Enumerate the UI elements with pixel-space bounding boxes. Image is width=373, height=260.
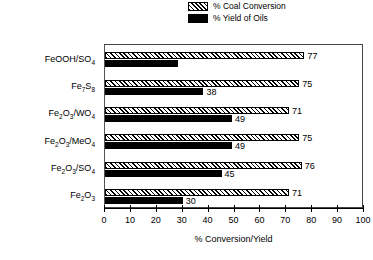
bar-coal-conversion: 71 (105, 189, 289, 196)
bar-value-label: 30 (186, 197, 196, 206)
bar-yield-of-oils: 38 (105, 88, 203, 95)
bar-value-label: 38 (206, 88, 216, 97)
legend-label-coal-conversion: % Coal Conversion (213, 2, 286, 11)
bar-group: 77 (105, 52, 362, 67)
axis-tick-label: 30 (177, 216, 187, 225)
axis-tick (208, 205, 209, 212)
bar-yield-of-oils: 45 (105, 170, 222, 177)
plot-area: 7775387149754976457130 (104, 44, 363, 208)
axis-tick (234, 205, 235, 212)
bar-value-label: 49 (235, 142, 245, 151)
bar-value-label: 71 (292, 189, 302, 198)
bar-group: 7130 (105, 189, 362, 204)
axis-tick-label: 50 (228, 216, 238, 225)
bar-group: 7149 (105, 107, 362, 122)
axis-tick (259, 205, 260, 212)
axis-tick (311, 205, 312, 212)
category-label: Fe2O3/MeO4 (45, 136, 95, 146)
bar-yield-of-oils (105, 60, 178, 67)
bar-value-label: 77 (307, 52, 317, 61)
bar-coal-conversion: 76 (105, 162, 302, 169)
legend-label-yield-of-oils: % Yield of Oils (213, 14, 268, 23)
axis-tick (130, 205, 131, 212)
bar-value-label: 71 (292, 107, 302, 116)
axis-tick (156, 205, 157, 212)
legend-item-yield-of-oils: % Yield of Oils (188, 14, 286, 23)
bar-yield-of-oils: 49 (105, 142, 232, 149)
axis-tick-label: 60 (254, 216, 264, 225)
bar-value-label: 49 (235, 115, 245, 124)
bar-coal-conversion: 77 (105, 52, 304, 59)
bar-group: 7549 (105, 134, 362, 149)
bars-layer: 7775387149754976457130 (105, 45, 362, 207)
bar-value-label: 45 (225, 170, 235, 179)
axis-tick-label: 100 (355, 216, 370, 225)
axis-tick-label: 40 (203, 216, 213, 225)
bar-value-label: 75 (302, 80, 312, 89)
axis-tick-label: 20 (151, 216, 161, 225)
axis-tick-label: 10 (125, 216, 135, 225)
axis-tick (337, 205, 338, 212)
axis-tick-label: 70 (280, 216, 290, 225)
bar-value-label: 76 (305, 162, 315, 171)
bar-group: 7645 (105, 162, 362, 177)
axis-tick (363, 205, 364, 212)
bar-group: 7538 (105, 80, 362, 95)
category-label: Fe7S8 (71, 81, 95, 91)
axis-tick (285, 205, 286, 212)
category-axis-labels: FeOOH/SO4Fe7S8Fe2O3/WO4Fe2O3/MeO4Fe2O3/S… (0, 44, 100, 208)
axis-tick-label: 90 (332, 216, 342, 225)
category-label: Fe2O3/WO4 (49, 108, 95, 118)
chart-legend: % Coal Conversion % Yield of Oils (188, 2, 286, 23)
category-label: Fe2O3/SO4 (51, 163, 95, 173)
bar-coal-conversion: 71 (105, 107, 289, 114)
bar-value-label: 75 (302, 134, 312, 143)
bar-yield-of-oils: 49 (105, 115, 232, 122)
bar-coal-conversion: 75 (105, 134, 299, 141)
axis-tick (104, 205, 105, 212)
hatched-swatch-icon (188, 2, 208, 11)
category-label: Fe2O3 (70, 190, 95, 200)
value-axis: 0102030405060708090100 (104, 208, 363, 209)
axis-tick-label: 80 (306, 216, 316, 225)
x-axis-title: % Conversion/Yield (104, 234, 363, 244)
bar-yield-of-oils: 30 (105, 197, 183, 204)
solid-black-swatch-icon (188, 14, 208, 23)
category-label: FeOOH/SO4 (45, 54, 95, 64)
axis-tick (182, 205, 183, 212)
legend-item-coal-conversion: % Coal Conversion (188, 2, 286, 11)
axis-tick-label: 0 (101, 216, 106, 225)
bar-coal-conversion: 75 (105, 80, 299, 87)
